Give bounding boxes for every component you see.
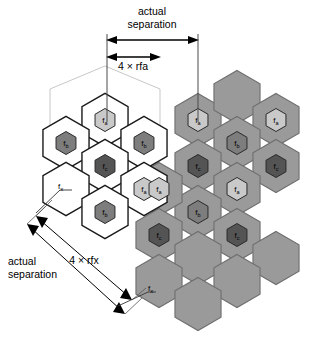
actual-separation-top-line1: actual bbox=[138, 5, 166, 17]
actual-separation-left-line1: actual bbox=[8, 255, 36, 267]
hexagon-reuse-diagram: fafbfbfcfafbfafafbfcfcfafbfafcfc actual … bbox=[0, 0, 329, 361]
actual-separation-top-line2: separation bbox=[127, 18, 176, 30]
arrowhead-left-rfa bbox=[106, 53, 117, 61]
four-rfa-label: 4 × rfa bbox=[118, 60, 148, 72]
diagram-canvas: fafbfbfcfafbfafafbfcfcfafbfafcfc actual … bbox=[0, 0, 329, 361]
arrowhead-right-rfa bbox=[150, 53, 161, 61]
four-rfx-label: 4 × rfx bbox=[69, 254, 99, 266]
arrowhead-left bbox=[106, 36, 117, 44]
arrowhead-rfx-end bbox=[120, 288, 132, 300]
arrowhead-right bbox=[188, 36, 199, 44]
actual-separation-left-line2: separation bbox=[8, 268, 57, 280]
diag-extension-c bbox=[125, 298, 142, 314]
